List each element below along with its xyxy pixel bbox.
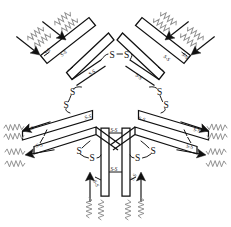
hinge-sulfur-lr-left: S — [135, 153, 140, 163]
antibody-diagram-canvas: S-S S-S S-S S-S — [0, 0, 231, 227]
hinge-sulfur-ll-left: S — [77, 146, 82, 156]
connector-sulfur-ur-lower: S — [164, 100, 169, 110]
hinge-sulfur-top-right: S — [124, 50, 129, 60]
connector-sulfur-ur-upper: S — [157, 87, 162, 97]
hinge-sulfur-ll-right: S — [90, 153, 95, 163]
connector-sulfur-ul-upper: S — [70, 87, 75, 97]
connector-sulfur-ul-lower: S — [64, 100, 69, 110]
diagram-background — [0, 0, 231, 227]
hinge-sulfur-lr-right: S — [151, 146, 156, 156]
disulfide-label-bottom-top: S-S — [111, 127, 118, 133]
diagram-svg: S-S S-S S-S S-S — [0, 0, 231, 227]
hinge-sulfur-top-left: S — [110, 50, 115, 60]
disulfide-label-bottom-lower2: S-S — [111, 166, 118, 172]
